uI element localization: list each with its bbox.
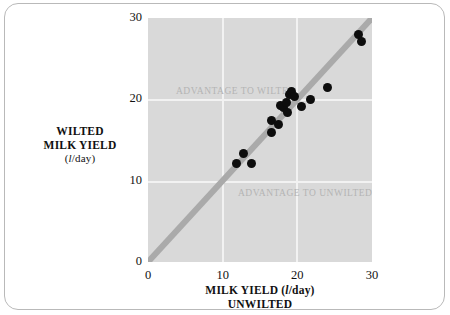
x-axis-title-text: MILK YIELD ( xyxy=(205,284,285,296)
y-axis-title-line3: (l/day) xyxy=(18,152,142,165)
x-axis-title-line1: MILK YIELD (l/day) xyxy=(148,284,372,298)
gridline-x-10 xyxy=(222,18,224,262)
plot-panel: ADVANTAGE TO WILTED ADVANTAGE TO UNWILTE… xyxy=(148,18,372,262)
x-tick-label-0: 0 xyxy=(133,268,163,283)
data-point xyxy=(306,95,315,104)
x-axis-title: MILK YIELD (l/day) UNWILTED xyxy=(148,284,372,311)
y-tick-label-20: 20 xyxy=(112,91,142,106)
data-point xyxy=(232,159,241,168)
data-point xyxy=(283,108,292,117)
data-point xyxy=(297,102,306,111)
data-point xyxy=(357,37,366,46)
data-point xyxy=(267,128,276,137)
y-tick-label-10: 10 xyxy=(112,173,142,188)
annotation-advantage-to-wilted: ADVANTAGE TO WILTED xyxy=(176,86,296,96)
gridline-y-20 xyxy=(148,99,372,101)
x-tick-label-20: 20 xyxy=(282,268,312,283)
data-point xyxy=(239,149,248,158)
y-axis-title: WILTED MILK YIELD (l/day) xyxy=(18,124,142,165)
data-point xyxy=(274,120,283,129)
x-axis-unit-suffix: /day) xyxy=(289,284,315,296)
data-point xyxy=(323,83,332,92)
gridline-x-20 xyxy=(296,18,298,262)
data-point xyxy=(282,98,291,107)
identity-line xyxy=(148,18,372,262)
y-axis-title-line2: MILK YIELD xyxy=(18,138,142,152)
y-axis-unit-suffix: /day) xyxy=(72,152,96,164)
gridline-y-10 xyxy=(148,181,372,183)
x-axis-title-line2: UNWILTED xyxy=(148,298,372,312)
y-tick-label-0: 0 xyxy=(112,254,142,269)
y-tick-label-30: 30 xyxy=(112,10,142,25)
x-tick-label-30: 30 xyxy=(357,268,387,283)
figure-container: ADVANTAGE TO WILTED ADVANTAGE TO UNWILTE… xyxy=(0,0,450,315)
data-point xyxy=(247,159,256,168)
annotation-advantage-to-unwilted: ADVANTAGE TO UNWILTED xyxy=(238,188,372,198)
data-point xyxy=(290,92,299,101)
y-axis-title-line1: WILTED xyxy=(18,124,142,138)
x-tick-label-10: 10 xyxy=(208,268,238,283)
